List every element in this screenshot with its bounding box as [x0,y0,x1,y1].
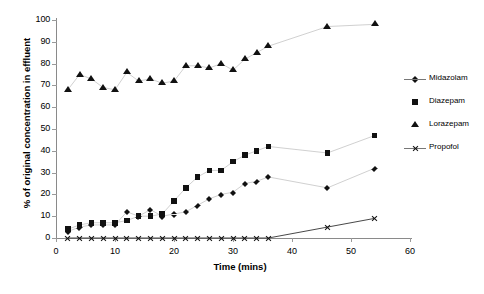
legend-item-lorazepam[interactable]: Lorazepam [404,118,484,141]
legend-label: Propofol [429,142,459,151]
y-tick-mark [52,151,57,152]
data-point-midazolam [195,200,201,206]
x-tick-mark [410,238,411,242]
data-point-lorazepam [158,79,166,85]
legend-symbol [412,145,419,152]
y-axis-title: % of original concentration in effluent [22,8,32,238]
y-tick-mark [52,173,57,174]
data-point-lorazepam [111,86,119,92]
data-point-lorazepam [123,68,131,74]
data-point-lorazepam [87,75,95,81]
legend-label: Lorazepam [429,119,469,128]
data-point-diazepam [230,159,236,165]
data-point-propofol [76,235,83,242]
legend-marker-triangle-icon [404,121,426,130]
data-point-diazepam [112,220,118,226]
data-point-lorazepam [194,62,202,68]
data-point-lorazepam [253,49,261,55]
legend-item-midazolam[interactable]: Midazolam [404,72,484,95]
data-point-midazolam [124,206,130,212]
legend-item-diazepam[interactable]: Diazepam [404,95,484,118]
data-point-diazepam [325,150,331,156]
data-point-midazolam [206,193,212,199]
y-tick-mark [52,64,57,65]
data-point-diazepam [372,133,378,139]
x-tick-label: 60 [395,246,425,256]
data-point-propofol [112,235,119,242]
data-point-lorazepam [229,66,237,72]
data-point-lorazepam [64,86,72,92]
legend-marker-square-icon [404,98,426,107]
data-point-propofol [371,215,378,222]
data-point-lorazepam [146,75,154,81]
x-axis-title: Time (mins) [150,262,330,272]
x-tick-mark [292,238,293,242]
y-tick-mark [52,129,57,130]
y-tick-mark [52,194,57,195]
x-tick-label: 50 [336,246,366,256]
data-point-diazepam [124,218,130,224]
y-tick-mark [52,85,57,86]
data-point-midazolam [254,176,260,182]
x-tick-label: 40 [277,246,307,256]
y-tick-mark [52,42,57,43]
data-point-midazolam [230,187,236,193]
data-point-lorazepam [76,71,84,77]
data-point-lorazepam [170,77,178,83]
data-point-propofol [241,235,248,242]
data-point-lorazepam [217,60,225,66]
x-tick-label: 10 [100,246,130,256]
data-point-diazepam [207,168,213,174]
data-point-diazepam [89,220,95,226]
x-tick-label: 30 [218,246,248,256]
legend-symbol [412,73,418,79]
data-point-propofol [147,235,154,242]
data-point-diazepam [159,211,165,217]
data-point-midazolam [265,171,271,177]
data-point-diazepam [266,144,272,150]
data-point-diazepam [195,174,201,180]
data-point-midazolam [324,182,330,188]
data-point-diazepam [183,185,189,191]
x-tick-label: 0 [41,246,71,256]
data-point-lorazepam [323,23,331,29]
data-point-midazolam [218,189,224,195]
data-point-diazepam [148,213,154,219]
legend-marker-diamond-icon [404,75,426,84]
data-point-propofol [88,235,95,242]
data-point-diazepam [65,226,71,232]
data-point-diazepam [254,148,260,154]
series-line-lorazepam [68,24,375,89]
legend-symbol [411,121,419,127]
data-point-propofol [324,224,331,231]
data-point-lorazepam [241,55,249,61]
legend-symbol [412,99,418,105]
data-point-propofol [230,235,237,242]
data-point-diazepam [218,168,224,174]
data-point-midazolam [372,163,378,169]
y-tick-mark [52,216,57,217]
data-point-propofol [218,235,225,242]
data-point-diazepam [136,213,142,219]
legend-label: Midazolam [429,73,468,82]
y-tick-mark [52,107,57,108]
data-point-propofol [100,235,107,242]
data-point-lorazepam [205,64,213,70]
data-point-lorazepam [135,77,143,83]
data-point-propofol [253,235,260,242]
data-point-propofol [182,235,189,242]
data-point-propofol [159,235,166,242]
data-point-diazepam [171,198,177,204]
data-point-midazolam [242,178,248,184]
legend-label: Diazepam [429,96,465,105]
chart-legend: MidazolamDiazepamLorazepamPropofol [404,72,484,164]
data-point-propofol [64,235,71,242]
data-point-propofol [194,235,201,242]
data-point-lorazepam [182,62,190,68]
data-point-propofol [123,235,130,242]
y-tick-mark [52,20,57,21]
data-point-lorazepam [264,42,272,48]
data-point-diazepam [242,152,248,158]
legend-item-propofol[interactable]: Propofol [404,141,484,164]
x-tick-mark [56,238,57,242]
